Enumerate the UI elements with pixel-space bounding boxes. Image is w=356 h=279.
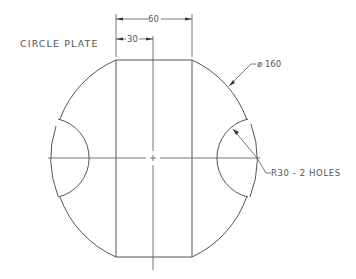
dimension-30: 30: [116, 34, 153, 44]
centerlines: [48, 36, 260, 270]
dimension-60-label: 60: [148, 14, 159, 24]
plate-outline: [51, 60, 257, 257]
diameter-leader: ø 160: [229, 59, 281, 86]
drawing-title: CIRCLE PLATE: [20, 38, 99, 49]
hole-note-label: R30 - 2 HOLES: [271, 168, 341, 178]
hole-radius-leader: R30 - 2 HOLES: [233, 129, 341, 178]
diameter-label: ø 160: [257, 59, 281, 69]
dimension-30-label: 30: [127, 34, 138, 44]
circle-plate-drawing: CIRCLE PLATE: [0, 0, 356, 279]
